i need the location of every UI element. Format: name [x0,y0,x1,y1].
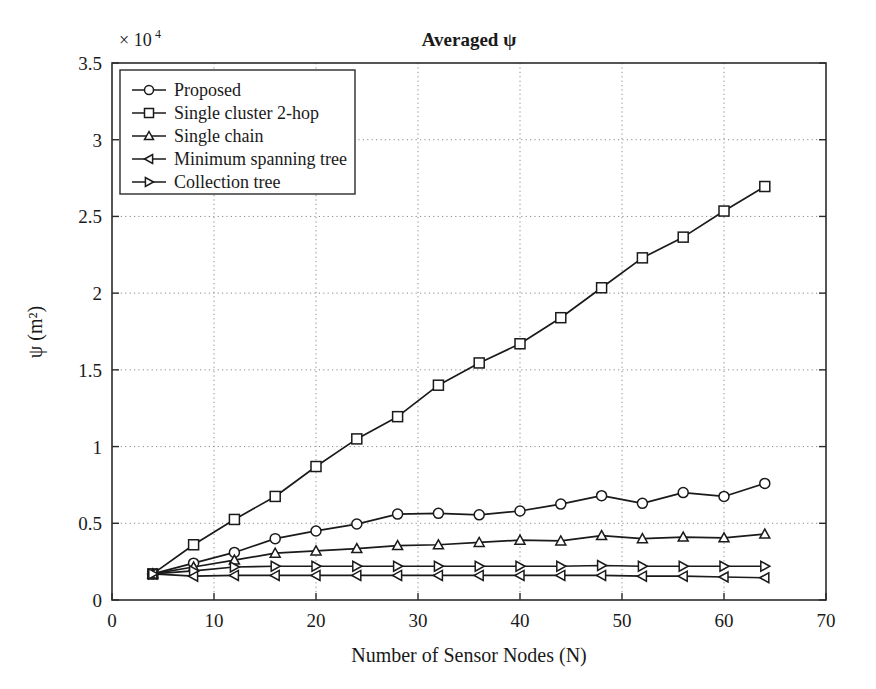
data-point-marker [393,412,403,422]
data-point-marker [474,510,484,520]
averaged-psi-line-chart: 01020304050607000.511.522.533.5 × 10 4 A… [0,0,876,689]
data-point-marker [353,561,362,571]
data-point-marker [760,573,769,583]
data-point-marker [474,358,484,368]
data-point-marker [393,509,403,519]
data-point-marker [719,491,729,501]
x-tick-label: 70 [817,610,836,631]
data-point-marker [433,570,442,580]
series-line [153,565,765,573]
data-series [148,478,770,579]
y-tick-label: 2 [93,283,103,304]
data-point-marker [719,206,729,216]
data-point-marker [638,561,647,571]
data-point-marker [189,540,199,550]
y-axis-label: ψ (m²) [24,306,47,358]
y-tick-label: 3 [93,130,103,151]
x-tick-label: 60 [715,610,734,631]
data-point-marker [637,571,646,581]
legend-sample-marker [145,86,154,95]
data-point-marker [760,182,770,192]
data-point-marker [434,561,443,571]
legend-label: Single cluster 2-hop [174,103,319,123]
y-tick-label: 0 [93,590,103,611]
data-point-marker [597,491,607,501]
x-tick-label: 20 [307,610,326,631]
y-tick-label: 0.5 [78,513,102,534]
y-tick-label: 1 [93,437,103,458]
data-point-marker [760,478,770,488]
data-series [148,569,769,583]
data-point-marker [352,570,361,580]
chart-legend: ProposedSingle cluster 2-hopSingle chain… [120,70,355,194]
y-tick-label: 2.5 [78,206,102,227]
legend-label: Minimum spanning tree [174,149,347,169]
data-point-marker [598,560,607,570]
series-line [153,534,765,574]
data-point-marker [352,434,362,444]
data-point-marker [433,380,443,390]
data-series [148,182,770,579]
legend-label: Collection tree [174,172,280,192]
data-point-marker [474,570,483,580]
x-tick-label: 30 [409,610,428,631]
data-point-marker [433,508,443,518]
data-point-marker [556,313,566,323]
data-point-marker [678,571,687,581]
data-point-marker [352,519,362,529]
y-exponent-power: 4 [155,27,161,41]
chart-figure: 01020304050607000.511.522.533.5 × 10 4 A… [0,0,876,689]
x-tick-label: 10 [205,610,224,631]
x-tick-label: 40 [511,610,530,631]
data-point-marker [678,488,688,498]
legend-label: Proposed [174,80,241,100]
y-exponent-mantissa: × 10 [119,30,152,50]
data-point-marker [270,534,280,544]
data-series [148,529,770,578]
data-point-marker [637,253,647,263]
y-tick-label: 1.5 [78,360,102,381]
data-point-marker [311,526,321,536]
data-point-marker [597,570,606,580]
data-point-marker [637,498,647,508]
data-point-marker [229,514,239,524]
data-point-marker [394,561,403,571]
legend-label: Single chain [174,126,263,146]
data-point-marker [679,561,688,571]
series-line [153,483,765,574]
x-axis-label: Number of Sensor Nodes (N) [351,644,587,667]
data-point-marker [678,232,688,242]
data-series-layer [148,182,770,583]
x-tick-label: 0 [107,610,117,631]
data-point-marker [271,561,280,571]
data-point-marker [475,561,484,571]
chart-title: Averaged ψ [422,29,517,50]
data-point-marker [270,491,280,501]
series-line [153,187,765,574]
y-axis-exponent: × 10 4 [119,27,161,50]
data-point-marker [556,499,566,509]
data-point-marker [393,570,402,580]
data-point-marker [515,506,525,516]
series-line [153,574,765,578]
data-point-marker [597,283,607,293]
data-point-marker [515,339,525,349]
data-point-marker [270,570,279,580]
data-point-marker [556,570,565,580]
data-point-marker [557,561,566,571]
data-point-marker [761,561,770,571]
data-point-marker [311,462,321,472]
y-tick-label: 3.5 [78,53,102,74]
x-tick-label: 50 [613,610,632,631]
legend-sample-marker [145,109,154,118]
